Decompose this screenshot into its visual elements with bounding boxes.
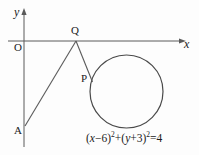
x-axis-label: x xyxy=(184,38,189,50)
segment-AQ xyxy=(25,41,76,126)
eq-minus-six: −6 xyxy=(95,132,107,144)
origin-label: O xyxy=(14,42,22,53)
geometry-figure: y x O Q P A (x−6)2+(y+3)2=4 xyxy=(0,0,199,155)
point-label-q: Q xyxy=(71,25,79,36)
y-axis-arrowhead xyxy=(21,8,26,15)
point-label-p: P xyxy=(81,73,87,84)
y-axis-label: y xyxy=(14,6,19,18)
point-label-a: A xyxy=(14,125,22,136)
circle-shape xyxy=(90,55,163,128)
eq-equals-four: =4 xyxy=(150,132,162,144)
circle-equation-label: (x−6)2+(y+3)2=4 xyxy=(86,133,162,145)
eq-plus-three: +3 xyxy=(130,132,142,144)
